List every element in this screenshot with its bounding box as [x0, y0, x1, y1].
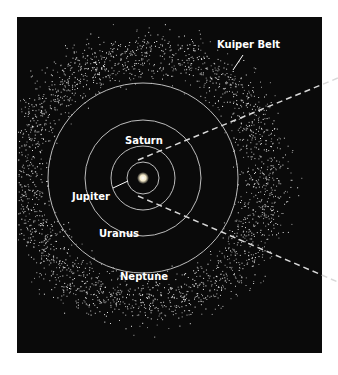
saturn-label: Saturn — [125, 135, 163, 146]
uranus-label: Uranus — [99, 228, 139, 239]
kuiper-belt-label: Kuiper Belt — [217, 39, 280, 50]
space-background — [17, 17, 322, 353]
jupiter-label: Jupiter — [71, 191, 110, 202]
sun — [137, 172, 149, 184]
solar-system-diagram: Kuiper Belt Saturn Jupiter Uranus Neptun… — [0, 0, 338, 375]
neptune-label: Neptune — [120, 271, 168, 282]
